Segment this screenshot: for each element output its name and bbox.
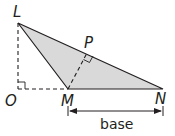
label-l: L: [13, 3, 21, 21]
triangle-lmn: [18, 23, 163, 89]
base-label: base: [100, 116, 133, 132]
label-o: O: [5, 92, 17, 110]
right-angle-marker-o: [18, 82, 25, 89]
base-arrowhead-right: [154, 108, 162, 114]
label-p: P: [84, 34, 94, 52]
triangle-diagram: L O M N P base: [0, 0, 175, 136]
label-m: M: [61, 92, 74, 110]
label-n: N: [155, 90, 166, 108]
